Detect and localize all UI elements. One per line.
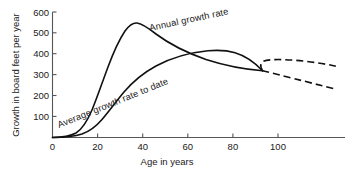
x-axis-title: Age in years xyxy=(141,156,194,167)
y-tick-label-300: 300 xyxy=(33,69,49,80)
y-axis-title: Growth in board feet per year xyxy=(10,13,21,137)
y-tick-label-200: 200 xyxy=(33,90,49,101)
growth-rate-chart: 600 500 400 300 200 100 0 20 40 60 80 10… xyxy=(0,0,361,177)
y-tick-label-400: 400 xyxy=(33,48,49,59)
y-axis xyxy=(53,12,57,138)
x-tick-label-0: 0 xyxy=(50,141,55,152)
annotation-annual-growth-rate: Annual growth rate xyxy=(148,6,229,33)
x-axis xyxy=(53,134,346,138)
series-average-growth-rate-to-date-projection xyxy=(261,60,336,71)
y-tick-label-600: 600 xyxy=(33,7,49,18)
y-tick-labels: 600 500 400 300 200 100 xyxy=(33,7,49,122)
x-tick-labels: 0 20 40 60 80 100 xyxy=(50,141,286,152)
y-tick-label-100: 100 xyxy=(33,111,49,122)
x-tick-label-80: 80 xyxy=(228,141,239,152)
x-tick-label-100: 100 xyxy=(270,141,286,152)
series-annual-growth-rate-projection xyxy=(263,71,337,89)
x-tick-label-20: 20 xyxy=(92,141,103,152)
x-tick-label-40: 40 xyxy=(137,141,148,152)
annotation-average-growth-rate-to-date: Average growth rate to date xyxy=(56,76,170,130)
x-tick-label-60: 60 xyxy=(183,141,194,152)
y-tick-label-500: 500 xyxy=(33,27,49,38)
chart-canvas: 600 500 400 300 200 100 0 20 40 60 80 10… xyxy=(0,0,361,177)
